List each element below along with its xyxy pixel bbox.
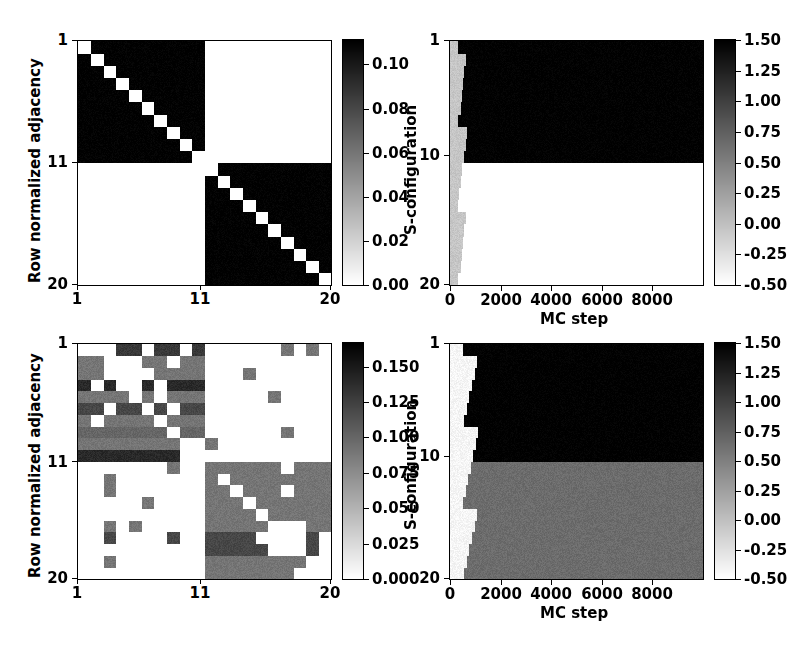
xtick-label: 2000 [476,293,526,308]
xtick-top-left-0: 1 [63,292,91,307]
colorbar-tick-mark [736,343,741,344]
xtick-mark-top-left-2 [330,285,331,290]
colorbar-tick-label: 0.75 [744,125,781,140]
colorbar-tick-mark [364,197,369,198]
colorbar-tick-mark [736,491,741,492]
colorbar-tick-label: 0.00 [372,278,409,293]
colorbar-tick-label: 0.00 [744,513,781,528]
axis-title-y-bottom-right: S-configuration [404,400,419,530]
colorbar-bottom-left[interactable] [342,342,364,580]
ytick-mark-top-left-0 [72,40,77,41]
colorbar-tick-mark [364,579,369,580]
ytick-mark-bottom-left-1 [72,461,77,462]
colorbar-bottom-right[interactable] [714,342,736,580]
colorbar-top-left[interactable] [342,39,364,286]
ytick-top-right-1: 10 [412,148,440,163]
ytick-mark-top-left-1 [72,162,77,163]
xtick-label: 8000 [627,587,677,602]
xtick-label: 0 [425,293,475,308]
colorbar-tick-label: 0.25 [744,186,781,201]
colorbar-tick-label: 0.150 [372,360,419,375]
ytick-mark-bottom-left-0 [72,343,77,344]
colorbar-tick-mark [736,71,741,72]
colorbar-tick-mark [364,508,369,509]
colorbar-tick-label: -0.50 [744,572,787,587]
colorbar-tick-label: 0.50 [744,156,781,171]
xtick-mark-top-left-0 [77,285,78,290]
colorbar-tick-label: 1.25 [744,366,781,381]
xtick-label: 4000 [526,587,576,602]
axis-title-y-top-left: Row normalized adjacency [28,58,43,283]
colorbar-tick-label: 1.00 [744,395,781,410]
colorbar-tick-mark [736,402,741,403]
colorbar-tick-mark [736,579,741,580]
heatmap-top-left[interactable] [77,40,332,286]
colorbar-tick-label: 0.25 [744,484,781,499]
colorbar-tick-mark [736,520,741,521]
xtick-mark-bottom-left-0 [77,579,78,584]
colorbar-tick-mark [364,285,369,286]
colorbar-tick-mark [364,402,369,403]
ytick-mark-top-right-1 [444,155,449,156]
colorbar-tick-label: 0.00 [744,217,781,232]
colorbar-tick-mark [364,367,369,368]
colorbar-tick-label: -0.50 [744,278,787,293]
colorbar-tick-label: 0.75 [744,425,781,440]
colorbar-tick-label: 0.50 [744,454,781,469]
colorbar-tick-label: 1.25 [744,64,781,79]
colorbar-tick-mark [736,285,741,286]
ytick-bottom-right-0: 1 [412,336,440,351]
colorbar-tick-mark [364,544,369,545]
xtick-label: 2000 [476,587,526,602]
ytick-bottom-left-2: 20 [40,571,68,586]
colorbar-tick-mark [736,461,741,462]
figure-root: Row normalized adjacency 1 11 20 1 11 20… [0,0,805,659]
colorbar-tick-mark [736,163,741,164]
xtick-mark-top-left-1 [200,285,201,290]
colorbar-tick-label: 0.02 [372,234,409,249]
heatmap-bottom-right[interactable] [449,343,704,580]
xtick-label: 6000 [577,293,627,308]
xtick-label: 4000 [526,293,576,308]
heatmap-top-right[interactable] [449,40,704,286]
colorbar-tick-label: 0.10 [372,57,409,72]
axis-title-y-top-right: S-configuration [404,105,419,235]
xtick-bottom-left-2: 20 [316,586,344,601]
colorbar-tick-label: 0.025 [372,537,419,552]
heatmap-bottom-left[interactable] [77,343,332,580]
xtick-top-left-2: 20 [316,292,344,307]
colorbar-tick-mark [736,193,741,194]
colorbar-tick-mark [736,373,741,374]
colorbar-tick-mark [364,241,369,242]
colorbar-tick-label: -0.25 [744,543,787,558]
colorbar-tick-label: 1.50 [744,33,781,48]
colorbar-tick-mark [364,109,369,110]
colorbar-tick-mark [736,224,741,225]
ytick-mark-top-right-0 [444,40,449,41]
ytick-bottom-right-1: 10 [412,449,440,464]
xtick-label: 6000 [577,587,627,602]
ytick-top-right-2: 20 [412,277,440,292]
ytick-bottom-right-2: 20 [412,571,440,586]
colorbar-tick-label: 1.00 [744,94,781,109]
xtick-bottom-left-0: 1 [63,586,91,601]
ytick-mark-top-right-2 [444,284,449,285]
ytick-mark-bottom-right-0 [444,343,449,344]
ytick-mark-bottom-right-2 [444,578,449,579]
colorbar-tick-label: 1.50 [744,336,781,351]
xtick-bottom-left-1: 11 [186,586,214,601]
ytick-top-left-2: 20 [40,277,68,292]
colorbar-tick-mark [736,432,741,433]
ytick-top-left-0: 1 [40,33,68,48]
axis-title-x-top-right: MC step [540,312,608,327]
colorbar-top-right[interactable] [714,39,736,286]
axis-title-x-bottom-right: MC step [540,606,608,621]
ytick-mark-bottom-right-1 [444,456,449,457]
colorbar-tick-mark [364,153,369,154]
colorbar-tick-mark [736,254,741,255]
xtick-top-left-1: 11 [186,292,214,307]
colorbar-tick-mark [736,40,741,41]
colorbar-tick-mark [364,473,369,474]
colorbar-tick-mark [364,437,369,438]
xtick-mark-bottom-left-2 [330,579,331,584]
